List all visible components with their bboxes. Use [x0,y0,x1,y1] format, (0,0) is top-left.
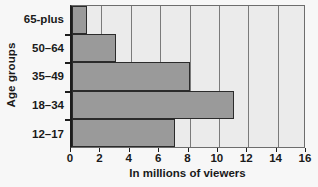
bar-chart: Age groups 65-plus 50–64 35–49 18–34 12–… [0,0,318,187]
x-axis-title: In millions of viewers [70,167,305,179]
bar-row [72,119,304,147]
y-axis-tick [65,91,70,93]
bar-row [72,91,304,119]
bar-65-plus [72,6,87,34]
x-tick-label: 14 [269,152,282,164]
x-axis-tick [246,148,247,152]
x-axis-tick [99,148,100,152]
bar-35-49 [72,62,190,90]
bar-12-17 [72,119,175,147]
x-axis-tick [217,148,218,152]
x-axis-tick [129,148,130,152]
y-tick-label: 18–34 [18,91,68,120]
bars-layer [72,6,304,147]
y-axis-tick [65,62,70,64]
bar-18-34 [72,91,234,119]
x-tick-label: 10 [210,152,223,164]
y-tick-label: 12–17 [18,119,68,148]
x-tick-label: 0 [67,152,73,164]
y-axis-title-text: Age groups [5,43,17,108]
bar-row [72,6,304,34]
y-axis-tick [65,34,70,36]
x-axis-tick [158,148,159,152]
x-axis-tick [276,148,277,152]
x-axis-tick-labels: 0246810121416 [0,152,318,166]
x-tick-label: 16 [299,152,312,164]
x-tick-label: 6 [155,152,161,164]
x-tick-label: 4 [126,152,132,164]
x-axis-tick [188,148,189,152]
y-axis-tick-labels: 65-plus 50–64 35–49 18–34 12–17 [18,5,68,148]
bar-row [72,62,304,90]
plot-area [70,5,305,148]
x-tick-label: 8 [184,152,190,164]
y-tick-label: 35–49 [18,62,68,91]
x-tick-label: 2 [96,152,102,164]
bar-row [72,34,304,62]
x-axis-tick [305,148,306,152]
x-tick-label: 12 [240,152,253,164]
x-axis-tick [70,148,71,152]
y-tick-label: 65-plus [18,5,68,34]
y-tick-label: 50–64 [18,34,68,63]
bar-50-64 [72,34,116,62]
y-axis-tick [65,119,70,121]
